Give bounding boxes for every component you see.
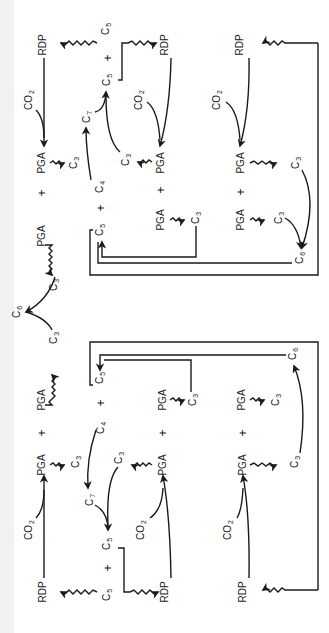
c3-label: C3 (121, 154, 134, 166)
c3-label: C3 (71, 456, 84, 468)
wavy-arrow-pga-to-c3-row2a (170, 218, 184, 221)
c4-label: C4 (96, 422, 109, 434)
pga-label: PGA (158, 454, 168, 475)
c3-label: C3 (49, 279, 62, 291)
wavy-arrow-bracket-to-rdp-top-right (263, 41, 318, 45)
c3-label: C3 (114, 452, 127, 464)
arrow-c3-c4-to-c7 (86, 128, 91, 180)
c6-label: C6 (295, 252, 308, 264)
plus-sign: + (103, 564, 113, 571)
wavy-arrow-pga-to-c3-b2 (250, 398, 264, 401)
arrow-rdp-to-pga-3 (160, 58, 171, 146)
c4-label: C4 (95, 181, 108, 193)
arrow-co2-join-4 (226, 102, 240, 140)
plus-sign: + (37, 429, 47, 436)
c6-label: C6 (288, 348, 301, 360)
rdp-label: RDP (235, 34, 245, 55)
plus-sign: + (238, 429, 248, 436)
arrow-co2-join-b1 (36, 490, 44, 518)
c5-label: C5 (95, 372, 108, 384)
arrow-c4-to-c7 (88, 430, 96, 488)
pga-label: PGA (156, 209, 166, 230)
connector-c3-to-c5-bottom (104, 360, 191, 392)
c5-label: C5 (102, 538, 115, 550)
pga-label: PGA (37, 454, 47, 475)
arrow-co2-join-1 (36, 110, 44, 138)
wavy-arrow-pga-to-c3-mid (45, 245, 52, 275)
bracket-c5-to-rdp-bottom (118, 548, 130, 592)
c3-label: C3 (191, 212, 204, 224)
plus-sign: + (37, 189, 47, 196)
co2-label: CO2 (223, 520, 236, 540)
pga-label: PGA (37, 225, 47, 246)
pga-label: PGA (237, 389, 247, 410)
arrow-co2-join-b3 (150, 488, 163, 518)
wavy-arrow-pga-to-c3-b5 (250, 463, 276, 466)
wavy-arrow-pga-to-c3-b4 (132, 463, 152, 466)
pga-label: PGA (156, 152, 166, 173)
wavy-arrow-c5-to-rdp-bottom-left (61, 590, 97, 594)
connector-c6-to-c5 (98, 242, 292, 263)
arrow-rdp-to-pga-b4 (243, 476, 249, 578)
c3-label: C3 (188, 394, 201, 406)
co2-label: CO2 (136, 520, 149, 540)
arrow-c3-to-c6-mid-b (26, 312, 52, 330)
co2-label: CO2 (24, 90, 37, 110)
wavy-arrow-pga-to-c3-1 (50, 161, 64, 164)
rdp-label: RDP (160, 581, 170, 602)
c3-label: C3 (49, 332, 62, 344)
c3-label: C3 (290, 456, 303, 468)
c3-label: C3 (271, 394, 284, 406)
c5-label: C5 (95, 224, 108, 236)
c7-label: C7 (85, 494, 98, 506)
connector-c3-to-c5-a (102, 226, 196, 257)
arrow-c3-to-c6-bottom (294, 366, 303, 453)
pga-label: PGA (158, 389, 168, 410)
arrow-co2-join-3 (147, 102, 160, 140)
pathway-connectors (0, 0, 329, 633)
wavy-arrow-pga-to-c3-b1 (170, 398, 184, 401)
pga-label: PGA (37, 389, 47, 410)
wavy-arrow-pga-to-c3-b3 (50, 463, 64, 466)
c5-label: C5 (102, 74, 115, 86)
arrow-c3-to-c5-bottom (108, 467, 118, 525)
c3-label: C3 (291, 157, 304, 169)
arrow-c3-to-c6-top (302, 170, 310, 248)
arrow-c7-to-c5-bottom (95, 505, 108, 530)
c5-label: C5 (102, 589, 115, 601)
arrow-co2-join-b4 (237, 488, 243, 518)
wavy-arrow-c5-to-rdp-top-left (61, 41, 97, 45)
plus-sign: + (96, 204, 106, 211)
wavy-arrow-pga-to-c3-row2b (250, 218, 264, 221)
c6-label: C6 (12, 306, 25, 318)
pga-label: PGA (37, 152, 47, 173)
arrow-rdp-to-pga-4 (240, 58, 249, 146)
rdp-label: RDP (38, 581, 48, 602)
wavy-arrow-pga-to-c3-3 (138, 160, 152, 163)
wavy-arrow-to-rdp-bottom-mid (130, 590, 158, 594)
pga-label: PGA (236, 209, 246, 230)
co2-label: CO2 (134, 90, 147, 110)
plus-sign: + (158, 429, 168, 436)
arrow-c3-to-c5 (106, 96, 120, 152)
rdp-label: RDP (238, 581, 248, 602)
plus-sign: + (156, 186, 166, 193)
arrow-c7-to-c5 (95, 92, 106, 112)
c3-label: C3 (274, 212, 287, 224)
pga-label: PGA (238, 454, 248, 475)
c7-label: C7 (82, 111, 95, 123)
wavy-arrow-pga-to-c3-4 (250, 161, 276, 164)
arrow-rdp-to-pga-b3 (163, 476, 171, 578)
plus-sign: + (236, 188, 246, 195)
rdp-label: RDP (38, 34, 48, 55)
co2-label: CO2 (212, 90, 225, 110)
arrow-c3-to-c6-top-b (285, 218, 301, 248)
pga-label: PGA (236, 152, 246, 173)
plus-sign: + (103, 54, 113, 61)
wavy-arrow-to-rdp-top-mid (128, 41, 156, 45)
c3-label: C3 (69, 157, 82, 169)
connector-c6-to-c5-bottom (100, 355, 286, 370)
wavy-arrow-bracket-to-rdp-bottom-right (263, 588, 318, 592)
plus-sign: + (96, 399, 106, 406)
bracket-c5-to-rdp-top (118, 43, 128, 80)
